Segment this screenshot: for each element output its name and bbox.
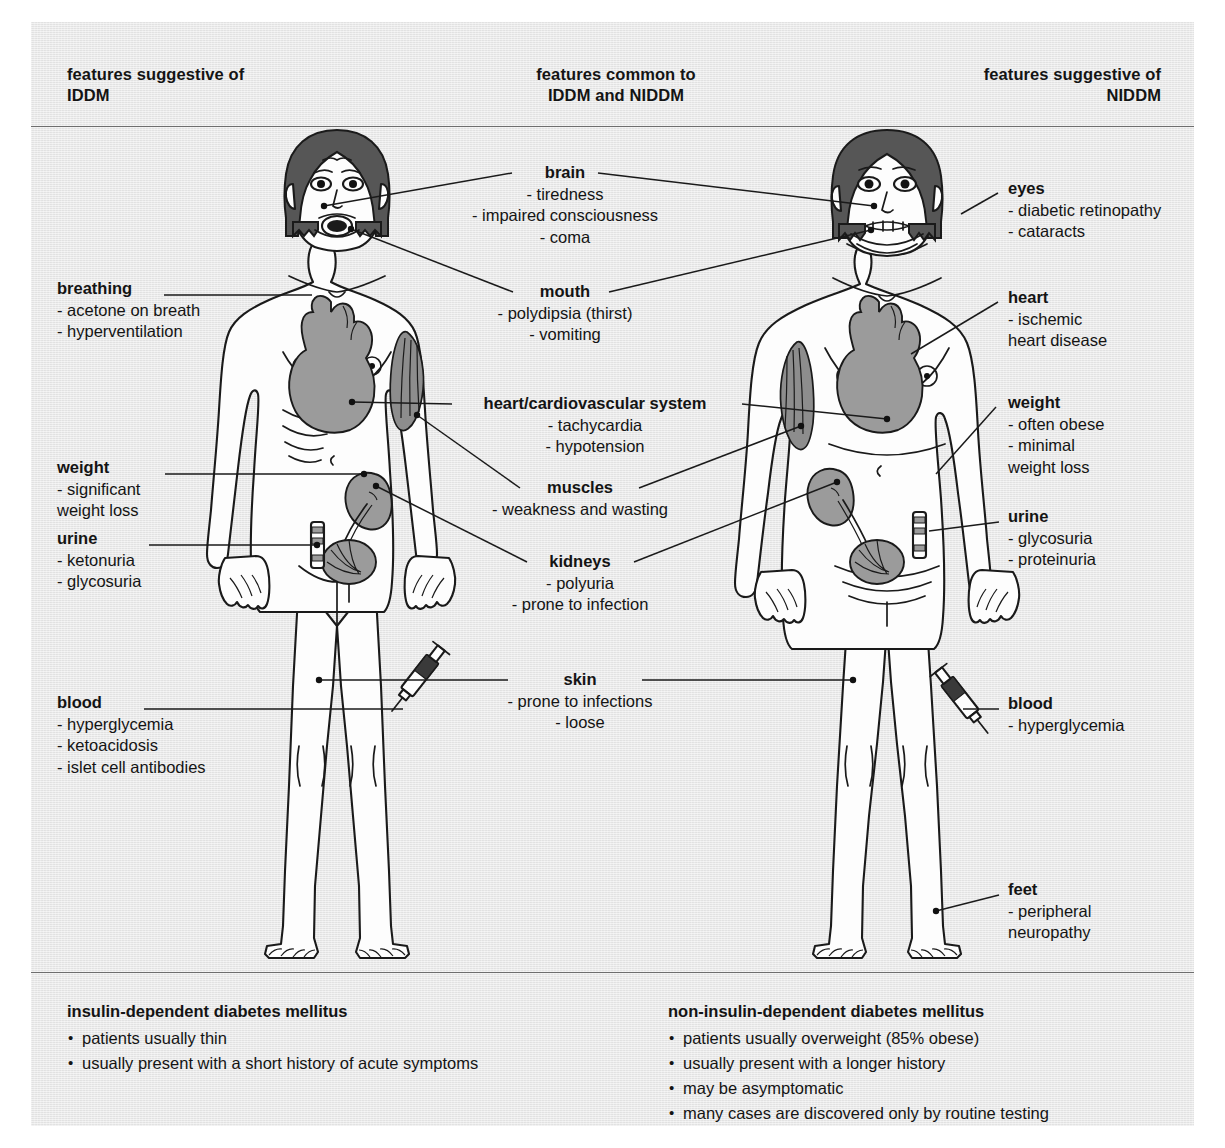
header-common-line2: IDDM and NIDDM: [548, 86, 684, 104]
annotation-weight-niddm-item-1: - minimal: [1008, 435, 1104, 457]
header-column-iddm: features suggestive of IDDM: [67, 64, 397, 106]
annotation-urine-niddm[interactable]: urine - glycosuria - proteinuria: [1008, 506, 1096, 571]
annotation-urine-iddm[interactable]: urine - ketonuria - glycosuria: [57, 528, 141, 593]
annotation-urine-iddm-item-0: - ketonuria: [57, 550, 141, 572]
annotation-mouth-label: mouth: [435, 281, 695, 303]
annotation-brain-item-0: - tiredness: [435, 184, 695, 206]
annotation-cardiovascular-label: heart/cardiovascular system: [425, 393, 765, 415]
footer-niddm-item-2: may be asymptomatic: [668, 1076, 1049, 1101]
footer-row: insulin-dependent diabetes mellitus pati…: [31, 972, 1194, 1126]
header-niddm-line1: features suggestive of: [984, 65, 1161, 83]
annotation-weight-iddm-label: weight: [57, 457, 140, 479]
annotation-blood-niddm-label: blood: [1008, 693, 1124, 715]
annotation-weight-iddm[interactable]: weight - significant weight loss: [57, 457, 140, 522]
annotation-mouth-item-1: - vomiting: [435, 324, 695, 346]
annotation-blood-niddm[interactable]: blood - hyperglycemia: [1008, 693, 1124, 736]
footer-niddm-heading: non-insulin-dependent diabetes mellitus: [668, 999, 1049, 1024]
annotation-urine-iddm-label: urine: [57, 528, 141, 550]
annotation-cardiovascular[interactable]: heart/cardiovascular system - tachycardi…: [425, 393, 765, 458]
annotation-heart-niddm-label: heart: [1008, 287, 1107, 309]
annotation-cardiovascular-item-0: - tachycardia: [425, 415, 765, 437]
annotation-feet-label: feet: [1008, 879, 1091, 901]
annotation-brain-item-1: - impaired consciousness: [435, 205, 695, 227]
annotation-eyes-item-0: - diabetic retinopathy: [1008, 200, 1161, 222]
diagram-canvas: .ol{fill:#fdfdfd;stroke:#1a1a1a;stroke-w…: [31, 126, 1194, 972]
header-row: features suggestive of IDDM features com…: [31, 22, 1194, 126]
footer-iddm-list: patients usually thin usually present wi…: [67, 1026, 478, 1076]
annotation-kidneys-item-0: - polyuria: [445, 573, 715, 595]
footer-niddm-item-1: usually present with a longer history: [668, 1051, 1049, 1076]
annotation-skin-item-0: - prone to infections: [445, 691, 715, 713]
annotation-urine-niddm-item-0: - glycosuria: [1008, 528, 1096, 550]
footer-niddm-summary: non-insulin-dependent diabetes mellitus …: [668, 999, 1049, 1126]
annotation-brain-item-2: - coma: [435, 227, 695, 249]
annotation-blood-iddm[interactable]: blood - hyperglycemia - ketoacidosis - i…: [57, 692, 206, 778]
annotation-weight-niddm[interactable]: weight - often obese - minimal weight lo…: [1008, 392, 1104, 478]
annotation-weight-niddm-item-0: - often obese: [1008, 414, 1104, 436]
annotation-kidneys-label: kidneys: [445, 551, 715, 573]
footer-iddm-item-0: patients usually thin: [67, 1026, 478, 1051]
annotation-weight-niddm-item-2: weight loss: [1008, 457, 1104, 479]
header-column-common: features common to IDDM and NIDDM: [451, 64, 781, 106]
annotation-eyes-item-1: - cataracts: [1008, 221, 1161, 243]
annotation-breathing-label: breathing: [57, 278, 200, 300]
annotation-weight-niddm-label: weight: [1008, 392, 1104, 414]
annotation-breathing-item-0: - acetone on breath: [57, 300, 200, 322]
footer-niddm-list: patients usually overweight (85% obese) …: [668, 1026, 1049, 1126]
annotation-blood-iddm-item-1: - ketoacidosis: [57, 735, 206, 757]
annotation-blood-iddm-label: blood: [57, 692, 206, 714]
annotation-blood-iddm-item-0: - hyperglycemia: [57, 714, 206, 736]
annotation-feet[interactable]: feet - peripheral neuropathy: [1008, 879, 1091, 944]
annotation-eyes[interactable]: eyes - diabetic retinopathy - cataracts: [1008, 178, 1161, 243]
header-iddm-line2: IDDM: [67, 86, 110, 104]
annotation-kidneys-item-1: - prone to infection: [445, 594, 715, 616]
annotation-feet-item-0: - peripheral: [1008, 901, 1091, 923]
annotation-urine-niddm-item-1: - proteinuria: [1008, 549, 1096, 571]
annotation-skin-item-1: - loose: [445, 712, 715, 734]
diagram-panel: features suggestive of IDDM features com…: [31, 22, 1194, 1126]
annotation-weight-iddm-item-0: - significant: [57, 479, 140, 501]
annotation-blood-iddm-item-2: - islet cell antibodies: [57, 757, 206, 779]
annotation-weight-iddm-item-1: weight loss: [57, 500, 140, 522]
annotation-blood-niddm-item-0: - hyperglycemia: [1008, 715, 1124, 737]
annotation-muscles-item-0: - weakness and wasting: [435, 499, 725, 521]
annotation-heart-niddm-item-1: heart disease: [1008, 330, 1107, 352]
iddm-patient-figure: [207, 130, 455, 958]
annotation-brain[interactable]: brain - tiredness - impaired consciousne…: [435, 162, 695, 248]
header-niddm-line2: NIDDM: [1106, 86, 1161, 104]
blood-syringe: [930, 664, 996, 740]
annotation-eyes-label: eyes: [1008, 178, 1161, 200]
footer-niddm-item-3: many cases are discovered only by routin…: [668, 1101, 1049, 1126]
annotation-urine-niddm-label: urine: [1008, 506, 1096, 528]
footer-iddm-item-1: usually present with a short history of …: [67, 1051, 478, 1076]
annotation-brain-label: brain: [435, 162, 695, 184]
annotation-muscles[interactable]: muscles - weakness and wasting: [435, 477, 725, 520]
bladder-organ: [850, 540, 904, 584]
annotation-cardiovascular-item-1: - hypotension: [425, 436, 765, 458]
header-column-niddm: features suggestive of NIDDM: [821, 64, 1161, 106]
annotation-breathing[interactable]: breathing - acetone on breath - hyperven…: [57, 278, 200, 343]
annotation-skin[interactable]: skin - prone to infections - loose: [445, 669, 715, 734]
bladder-organ: [322, 540, 376, 584]
footer-iddm-heading: insulin-dependent diabetes mellitus: [67, 999, 478, 1024]
annotation-urine-iddm-item-1: - glycosuria: [57, 571, 141, 593]
footer-niddm-item-0: patients usually overweight (85% obese): [668, 1026, 1049, 1051]
annotation-mouth[interactable]: mouth - polydipsia (thirst) - vomiting: [435, 281, 695, 346]
annotation-feet-item-1: neuropathy: [1008, 922, 1091, 944]
annotation-skin-label: skin: [445, 669, 715, 691]
urine-test-strip: [913, 512, 926, 558]
annotation-muscles-label: muscles: [435, 477, 725, 499]
annotation-heart-niddm-item-0: - ischemic: [1008, 309, 1107, 331]
header-iddm-line1: features suggestive of: [67, 65, 244, 83]
annotation-heart-niddm[interactable]: heart - ischemic heart disease: [1008, 287, 1107, 352]
footer-iddm-summary: insulin-dependent diabetes mellitus pati…: [67, 999, 478, 1076]
annotation-mouth-item-0: - polydipsia (thirst): [435, 303, 695, 325]
niddm-patient-figure: [735, 130, 1019, 958]
annotation-kidneys[interactable]: kidneys - polyuria - prone to infection: [445, 551, 715, 616]
annotation-breathing-item-1: - hyperventilation: [57, 321, 200, 343]
header-common-line1: features common to: [536, 65, 696, 83]
